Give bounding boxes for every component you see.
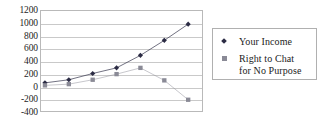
data-point-diamond	[138, 53, 143, 58]
y-axis-tick-label: 0	[33, 82, 38, 92]
data-point-diamond	[66, 77, 71, 82]
y-axis-tick-label: 1000	[19, 18, 38, 28]
data-point-square	[114, 72, 118, 76]
data-point-square	[186, 98, 190, 102]
data-series-layer	[41, 11, 202, 111]
y-axis-tick-label: 200	[24, 69, 38, 79]
y-axis-tick-label: 1200	[19, 5, 38, 15]
legend-marker-cell	[219, 53, 239, 64]
data-point-square	[138, 66, 142, 70]
y-axis-tick-label: 400	[24, 56, 38, 66]
legend-item-your-income: Your Income	[219, 36, 292, 48]
data-point-square	[162, 78, 166, 82]
legend-item-label: Right to Chat for No Purpose	[239, 53, 302, 76]
data-point-diamond	[90, 71, 95, 76]
y-axis: 120010008006004002000-200-400	[0, 0, 40, 119]
data-point-diamond	[162, 38, 167, 43]
legend-item-right-to-chat: Right to Chat for No Purpose	[219, 53, 302, 76]
square-marker-icon	[222, 56, 227, 61]
data-point-diamond	[186, 22, 191, 27]
diamond-marker-icon	[221, 38, 227, 44]
y-axis-tick-label: -400	[21, 107, 38, 117]
data-point-diamond	[114, 65, 119, 70]
y-axis-tick-label: 800	[24, 31, 38, 41]
chart-container: 120010008006004002000-200-400 Your Incom…	[0, 0, 327, 119]
plot-area	[40, 10, 203, 112]
y-axis-tick-label: 600	[24, 43, 38, 53]
data-point-square	[67, 82, 71, 86]
legend-item-label: Your Income	[239, 36, 292, 48]
legend-marker-cell	[219, 36, 239, 47]
chart-legend: Your Income Right to Chat for No Purpose	[212, 28, 317, 80]
y-axis-tick-label: -200	[21, 94, 38, 104]
data-point-square	[43, 83, 47, 87]
data-point-square	[91, 78, 95, 82]
